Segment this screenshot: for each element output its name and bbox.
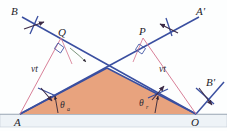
theta-r-symbol: θ [139,98,144,108]
theta-a-symbol: θ [60,100,65,110]
label-vt-left: vt [31,64,38,74]
label-Q: Q [58,26,66,38]
label-A: A [13,116,21,128]
label-vt-right: vt [159,64,166,74]
direction-arrow-near-q [70,48,86,62]
label-B-prime: B' [206,76,216,88]
wedge-fill [20,68,196,114]
huygens-reflection-figure: B A' Q P A O B' vt vt θ a θ r [0,0,227,131]
construction-line-P-arc [133,38,143,62]
label-O: O [191,116,199,128]
figure-canvas: B A' Q P A O B' vt vt θ a θ r [0,0,227,131]
direction-arrow-path [70,48,86,62]
theta-a-subscript: a [67,106,70,112]
wavefront-wedge [20,68,196,114]
label-A-prime: A' [195,5,206,17]
wavefront-marker-upper-left [24,16,44,34]
label-P: P [138,25,146,37]
label-B: B [11,5,18,17]
